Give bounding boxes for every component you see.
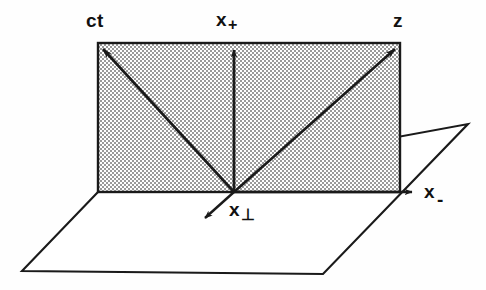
axis-label-z: z [393,11,403,30]
axis-label-x-minus-base: x [424,181,435,202]
axis-label-x-plus-sub: + [228,16,237,33]
axis-label-z-base: z [393,10,403,31]
lightcone-diagram [0,0,486,290]
axis-label-x-perp-sub: ⊥ [241,206,255,223]
axis-label-x-perp: x⊥ [229,200,255,223]
axis-label-x-perp-base: x [229,199,240,220]
figure-container: ct x+ z x- x⊥ [0,0,486,290]
axis-label-x-minus-sub: - [437,189,443,210]
axis-label-ct: ct [86,11,104,30]
axis-label-x-plus-base: x [216,9,227,30]
axis-label-x-plus: x+ [216,10,237,33]
axis-label-ct-base: ct [86,10,104,31]
axis-label-x-minus: x- [424,182,443,209]
shaded-plane [98,43,400,192]
